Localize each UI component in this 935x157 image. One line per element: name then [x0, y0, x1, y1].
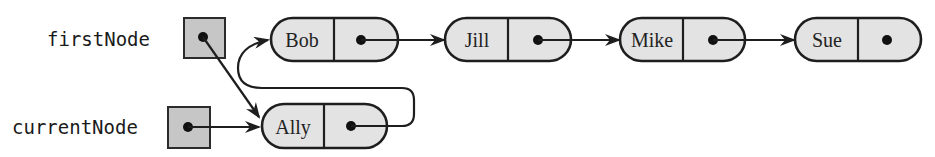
- null-pointer-dot-icon: [882, 35, 892, 45]
- linked-list-diagram: firstNode currentNode Bob Jill Mike Sue: [0, 0, 935, 157]
- arrow-first-node-to-ally: [203, 37, 259, 117]
- current-node-label: currentNode: [12, 116, 138, 138]
- node-data-sue: Sue: [812, 29, 842, 51]
- list-node-sue: Sue: [795, 18, 921, 61]
- node-data-mike: Mike: [631, 29, 673, 51]
- node-data-ally: Ally: [275, 116, 311, 139]
- node-data-jill: Jill: [465, 29, 490, 51]
- node-data-bob: Bob: [285, 29, 318, 51]
- first-node-label: firstNode: [47, 28, 150, 50]
